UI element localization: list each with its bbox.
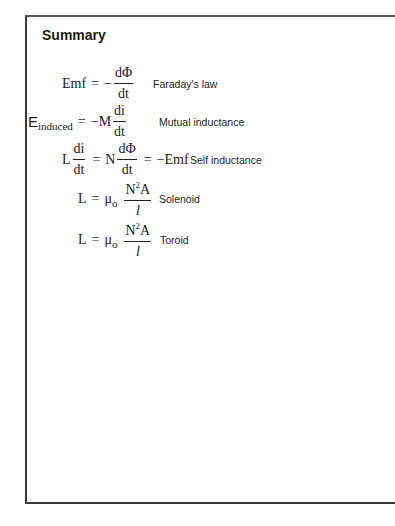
num-base: N [125, 223, 135, 238]
eq-term: L [78, 191, 87, 207]
self-inductance-equation: L di dt = N dΦ dt = −Emf [62, 142, 189, 177]
fraction: di dt [113, 104, 126, 139]
solenoid-equation: L = μo N2A l [78, 181, 153, 218]
subscript: o [112, 238, 118, 250]
eq-term: L [78, 232, 87, 248]
numerator: N2A [124, 222, 151, 242]
self-inductance-label: Self inductance [190, 154, 262, 166]
fraction: dΦ dt [114, 66, 133, 101]
denominator: dt [122, 160, 133, 177]
eq-sign: = [92, 191, 100, 207]
numerator: N2A [124, 181, 151, 201]
solenoid-label: Solenoid [159, 193, 200, 205]
eq-sign: = [144, 152, 152, 168]
eq-sign: = [92, 232, 100, 248]
numerator: dΦ [117, 142, 136, 160]
toroid-label: Toroid [160, 234, 189, 246]
eq-term: Emf [62, 76, 86, 92]
numerator: di [113, 104, 126, 122]
mutual-inductance-equation: Einduced = −M di dt [28, 104, 128, 139]
fraction: di dt [73, 142, 86, 177]
num-rest: A [140, 182, 150, 197]
numerator: di [73, 142, 86, 160]
mu-symbol: μ [104, 232, 112, 248]
fraction: dΦ dt [117, 142, 136, 177]
mutual-inductance-label: Mutual inductance [159, 116, 244, 128]
subscript: induced [38, 120, 73, 132]
denominator: dt [74, 160, 85, 177]
fraction: N2A l [124, 181, 151, 218]
coefficient: N [105, 152, 115, 168]
rhs-term: −Emf [157, 152, 189, 168]
numerator: dΦ [114, 66, 133, 84]
denominator: dt [118, 84, 129, 101]
num-rest: A [140, 223, 150, 238]
eq-term: L [62, 152, 71, 168]
toroid-equation: L = μo N2A l [78, 222, 153, 259]
coefficient: −M [91, 114, 111, 130]
eq-sign: = [78, 114, 86, 130]
denominator: dt [114, 122, 125, 139]
fraction: N2A l [124, 222, 151, 259]
eq-term: E [28, 113, 38, 130]
minus-sign: − [104, 76, 112, 92]
faraday-equation: Emf = − dΦ dt [62, 66, 135, 101]
faraday-label: Faraday's law [153, 78, 217, 90]
denominator: l [136, 242, 140, 259]
eq-sign: = [92, 152, 100, 168]
mu-symbol: μ [104, 191, 112, 207]
subscript: o [112, 197, 118, 209]
denominator: l [136, 201, 140, 218]
summary-title: Summary [42, 27, 106, 43]
num-base: N [125, 182, 135, 197]
eq-sign: = [91, 76, 99, 92]
